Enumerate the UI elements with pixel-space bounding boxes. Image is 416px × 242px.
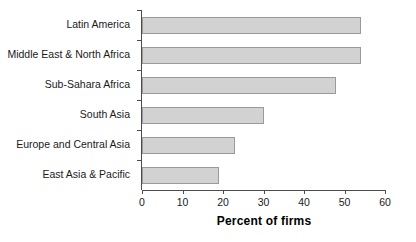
bar-fill <box>142 47 361 64</box>
x-axis-tick <box>223 190 224 194</box>
bar <box>142 47 361 64</box>
category-label: Europe and Central Asia <box>0 139 130 150</box>
x-axis-tick <box>142 190 143 194</box>
x-axis-tick <box>345 190 346 194</box>
x-axis-tick-label: 0 <box>127 196 157 208</box>
category-label: East Asia & Pacific <box>0 169 130 180</box>
y-axis-tick <box>137 100 141 101</box>
category-label: Sub-Sahara Africa <box>0 79 130 90</box>
bar <box>142 17 361 34</box>
y-axis-tick <box>137 70 141 71</box>
y-axis-tick <box>137 130 141 131</box>
bar <box>142 77 336 94</box>
y-axis-line <box>141 10 142 190</box>
bar <box>142 137 235 154</box>
y-axis-tick <box>137 160 141 161</box>
y-axis-tick <box>137 10 141 11</box>
x-axis-tick-label: 50 <box>330 196 360 208</box>
x-axis-tick <box>264 190 265 194</box>
x-axis-tick <box>183 190 184 194</box>
x-axis-tick-label: 10 <box>168 196 198 208</box>
x-axis-tick <box>385 190 386 194</box>
bar-fill <box>142 17 361 34</box>
x-axis-tick-label: 40 <box>289 196 319 208</box>
y-axis-tick <box>137 40 141 41</box>
x-axis-tick-label: 60 <box>370 196 400 208</box>
plot-area <box>142 10 385 190</box>
bar <box>142 167 219 184</box>
bar <box>142 107 264 124</box>
x-axis-tick <box>304 190 305 194</box>
category-axis-labels: Latin AmericaMiddle East & North AfricaS… <box>0 0 136 190</box>
bar-fill <box>142 77 336 94</box>
bar-fill <box>142 167 219 184</box>
bar-fill <box>142 137 235 154</box>
bar-chart: Latin AmericaMiddle East & North AfricaS… <box>0 0 416 242</box>
bar-fill <box>142 107 264 124</box>
category-label: Middle East & North Africa <box>0 49 130 60</box>
x-axis-tick-label: 20 <box>208 196 238 208</box>
x-axis-tick-label: 30 <box>249 196 279 208</box>
x-axis-title: Percent of firms <box>142 214 386 228</box>
category-label: South Asia <box>0 109 130 120</box>
category-label: Latin America <box>0 19 130 30</box>
